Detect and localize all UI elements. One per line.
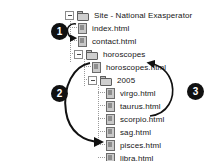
tree-node-label: index.html xyxy=(92,24,129,34)
collapse-toggle-icon[interactable] xyxy=(88,76,97,85)
tree-node-horoscopes-folder[interactable]: horoscopes xyxy=(74,48,145,61)
tree-line-2005-children xyxy=(98,85,99,144)
folder-icon xyxy=(77,11,90,21)
tree-line-sag xyxy=(98,131,106,132)
callout-badge-1: 1 xyxy=(51,23,68,40)
tree-node-label: libra.html xyxy=(120,154,153,162)
tree-node-label: Site - National Exasperator xyxy=(94,11,192,21)
document-icon xyxy=(78,36,87,47)
tree-node-index-html[interactable]: index.html xyxy=(78,22,129,35)
tree-line-taurus xyxy=(98,105,106,106)
tree-node-label: virgo.html xyxy=(120,89,156,99)
document-icon xyxy=(106,114,115,125)
tree-node-sag-html[interactable]: sag.html xyxy=(106,126,151,139)
tree-node-label: horoscopes xyxy=(103,50,145,60)
tree-node-label: taurus.html xyxy=(120,102,161,112)
tree-node-scorpio-html[interactable]: scorpio.html xyxy=(106,113,164,126)
tree-node-virgo-html[interactable]: virgo.html xyxy=(106,87,156,100)
document-icon xyxy=(106,140,115,151)
tree-line-index xyxy=(70,27,78,28)
collapse-toggle-icon[interactable] xyxy=(65,11,74,20)
tree-node-label: scorpio.html xyxy=(120,115,164,125)
tree-node-year-2005[interactable]: 2005 xyxy=(88,74,135,87)
document-icon xyxy=(106,127,115,138)
tree-node-label: pisces.html xyxy=(120,141,161,151)
tree-node-horoscopes-html[interactable]: horoscopes.html xyxy=(92,61,166,74)
file-tree: Site - National Exasperator index.html c… xyxy=(0,0,220,161)
tree-node-pisces-html[interactable]: pisces.html xyxy=(106,139,161,152)
collapse-toggle-icon[interactable] xyxy=(74,50,83,59)
tree-node-label: horoscopes.html xyxy=(106,63,166,73)
tree-node-label: contact.html xyxy=(92,37,136,47)
callout-badge-2: 2 xyxy=(51,85,68,102)
folder-icon xyxy=(86,50,99,60)
document-icon xyxy=(92,62,101,73)
tree-node-taurus-html[interactable]: taurus.html xyxy=(106,100,161,113)
tree-line-horoscopes-html xyxy=(84,66,92,67)
tree-node-contact-html[interactable]: contact.html xyxy=(78,35,136,48)
site-tree-diagram: Site - National Exasperator index.html c… xyxy=(0,0,220,161)
tree-line-scorpio xyxy=(98,118,106,119)
document-icon xyxy=(106,101,115,112)
tree-line-libra xyxy=(98,157,106,158)
document-icon xyxy=(106,153,115,161)
tree-node-label: 2005 xyxy=(117,76,135,86)
document-icon xyxy=(78,23,87,34)
tree-node-libra-html[interactable]: libra.html xyxy=(106,152,153,161)
callout-badge-3: 3 xyxy=(187,83,204,100)
tree-line-pisces xyxy=(98,144,106,145)
tree-line-contact xyxy=(70,40,78,41)
document-icon xyxy=(106,88,115,99)
tree-line-horoscopes-children xyxy=(84,59,85,87)
folder-icon xyxy=(100,76,113,86)
tree-line-virgo xyxy=(98,92,106,93)
tree-node-label: sag.html xyxy=(120,128,151,138)
tree-node-site-root[interactable]: Site - National Exasperator xyxy=(65,9,192,22)
